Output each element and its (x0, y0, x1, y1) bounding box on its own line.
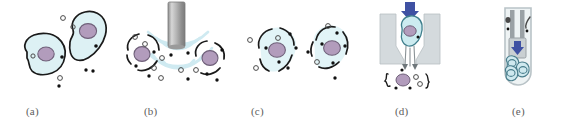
particle-open (58, 76, 63, 81)
cell-nucleus (324, 41, 341, 55)
particle-filled (286, 66, 289, 69)
particle-filled (526, 30, 529, 33)
particle-filled (294, 46, 297, 49)
particle-filled (408, 86, 411, 89)
cell-nucleus (134, 47, 150, 62)
particle-filled (60, 55, 64, 59)
particle-filled (507, 28, 510, 31)
particle-filled (84, 68, 87, 71)
lysate-bracket-right (426, 74, 429, 88)
particle-filled (394, 86, 397, 89)
cell-nucleus (404, 26, 416, 36)
panel-b-ultrasound-lysis: (b) (118, 0, 238, 121)
particle-open (152, 66, 157, 71)
particle-filled (306, 50, 309, 53)
particle-filled (91, 69, 94, 72)
particle-filled (505, 17, 510, 23)
device-wall-left (380, 14, 404, 64)
panel-d-artwork (358, 0, 463, 100)
particle-filled (288, 32, 291, 35)
particle-filled (152, 50, 155, 53)
particle-filled (320, 42, 323, 45)
cell-nucleus (269, 43, 286, 57)
particle-filled (205, 72, 208, 75)
stream-line (414, 46, 415, 66)
particle-open (194, 68, 199, 73)
panel-e-artwork (463, 0, 572, 100)
cell-nucleus (202, 51, 218, 66)
particle-open (414, 75, 419, 80)
panel-c-artwork (238, 0, 358, 100)
cell-intact-right (70, 11, 107, 60)
lysate-bracket-left (385, 74, 390, 87)
particle-open (159, 76, 164, 81)
panel-label-c: (c) (251, 106, 264, 117)
particle-filled (215, 78, 218, 81)
cell-nucleus (79, 24, 96, 39)
panel-a-intact-cells: (a) (0, 0, 118, 121)
probe-tip (168, 44, 185, 49)
particle-filled (335, 31, 338, 34)
panel-b-artwork (118, 0, 238, 100)
panel-label-e: (e) (512, 106, 525, 117)
panel-label-b: (b) (144, 106, 157, 117)
particle-filled (57, 84, 60, 87)
panel-e-collection-tube: (e) (463, 0, 572, 121)
cell-intact-left (25, 33, 65, 74)
cell-leaky-right (306, 24, 348, 80)
particle-filled (147, 74, 150, 77)
cell-nucleus (38, 47, 54, 61)
particle-filled (220, 48, 223, 51)
particle-filled (186, 51, 189, 54)
panel-label-d: (d) (395, 106, 408, 117)
ultrasonic-probe (168, 2, 185, 50)
particle-filled (277, 60, 280, 63)
particle-filled (134, 64, 137, 67)
released-lysate (385, 68, 429, 89)
cell-captured (401, 16, 422, 46)
particle-open (61, 16, 66, 21)
stream-line (405, 46, 406, 66)
plunger-stem-right (520, 10, 525, 38)
particle-open (248, 38, 253, 43)
particle-filled (333, 76, 336, 79)
particle-filled (331, 61, 334, 64)
arrow-down-icon (412, 64, 418, 70)
particle-filled (417, 36, 420, 39)
panel-label-a: (a) (26, 106, 39, 117)
plunger-stem-left (510, 10, 515, 38)
particle-open (418, 82, 423, 87)
panel-d-cell-capture-funnel: (d) (358, 0, 463, 121)
particle-filled (264, 46, 267, 49)
panel-c-permeabilized-cells: (c) (238, 0, 358, 121)
probe-body (168, 2, 185, 47)
particle-filled (94, 44, 98, 48)
particle-filled (169, 53, 172, 56)
particle-filled (343, 44, 346, 47)
cell-disrupted-left (127, 34, 159, 71)
particle-open (143, 42, 148, 47)
particle-open (254, 66, 259, 71)
cell-leaky-left (248, 27, 298, 71)
particle-filled (400, 68, 403, 71)
panel-a-artwork (0, 0, 118, 100)
cell-nucleus (396, 74, 410, 86)
figure-container: (a) (0, 0, 572, 121)
outflow-streams (405, 46, 415, 66)
particle-filled (186, 77, 189, 80)
